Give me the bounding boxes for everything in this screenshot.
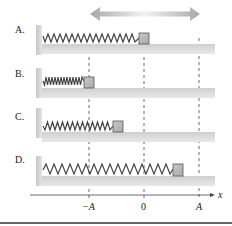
spring — [43, 122, 113, 130]
row-label-A: A. — [15, 24, 25, 35]
spring — [43, 34, 139, 42]
axis-variable-label: x — [217, 189, 223, 200]
row-A: A. — [15, 24, 215, 55]
wall — [36, 108, 42, 138]
spring-oscillation-diagram: A. B. C. D. x −A 0 A — [0, 0, 232, 226]
row-label-C: C. — [15, 111, 24, 122]
row-C: C. — [15, 108, 215, 142]
floor — [42, 176, 215, 186]
spring — [43, 77, 84, 85]
tick-label-neg-A: −A — [82, 201, 96, 212]
row-D: D. — [15, 154, 215, 186]
floor — [42, 88, 215, 98]
floor — [42, 44, 215, 54]
block — [113, 121, 123, 132]
wall — [36, 68, 42, 98]
spring — [43, 164, 173, 174]
bottom-divider — [0, 222, 232, 224]
row-B: B. — [15, 68, 215, 98]
block — [84, 77, 94, 88]
wall — [36, 156, 42, 186]
x-axis: x −A 0 A — [30, 189, 223, 212]
row-label-B: B. — [15, 68, 24, 79]
row-label-D: D. — [15, 154, 25, 165]
wall — [36, 25, 42, 55]
tick-label-zero: 0 — [141, 201, 146, 212]
tick-label-A: A — [195, 201, 203, 212]
block — [173, 164, 183, 176]
block — [139, 33, 149, 44]
floor — [42, 132, 215, 142]
double-arrow-icon — [90, 7, 200, 21]
